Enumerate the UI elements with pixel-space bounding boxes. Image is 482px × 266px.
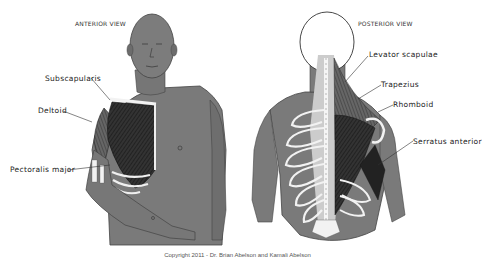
label-pectoralis-major: Pectoralis major xyxy=(10,165,75,174)
label-deltoid: Deltoid xyxy=(38,106,67,115)
anterior-view-title: ANTERIOR VIEW xyxy=(75,20,126,27)
anterior-figure xyxy=(86,14,226,245)
label-subscapularis: Subscapularis xyxy=(45,74,101,83)
copyright-text: Copyright 2011 - Dr. Brian Abelson and K… xyxy=(0,252,475,258)
posterior-view-title: POSTERIOR VIEW xyxy=(358,20,413,27)
label-serratus-anterior: Serratus anterior xyxy=(413,137,482,146)
label-rhomboid: Rhomboid xyxy=(393,100,433,109)
label-trapezius: Trapezius xyxy=(381,80,419,89)
label-levator-scapulae: Levator scapulae xyxy=(369,50,438,59)
posterior-figure xyxy=(252,12,405,240)
